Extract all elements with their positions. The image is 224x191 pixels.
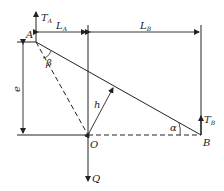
h-dimension-line	[89, 88, 113, 133]
h-label: h	[94, 99, 100, 110]
point-O-label: O	[90, 139, 98, 150]
TB-label: TB	[204, 114, 216, 126]
alpha-label: α	[170, 122, 177, 133]
point-A-label: A	[25, 29, 33, 40]
LA-label: LA	[55, 20, 68, 32]
TA-label: TA	[41, 12, 53, 24]
dashed-AO	[36, 42, 88, 135]
point-B-label: B	[202, 137, 210, 148]
force-diagram: e Q TB TA LA LB h β α A O B	[0, 0, 224, 191]
e-label: e	[11, 86, 22, 92]
Q-label: Q	[92, 173, 100, 184]
LB-label: LB	[139, 20, 152, 32]
alpha-arc	[179, 123, 180, 135]
beta-label: β	[45, 57, 52, 68]
